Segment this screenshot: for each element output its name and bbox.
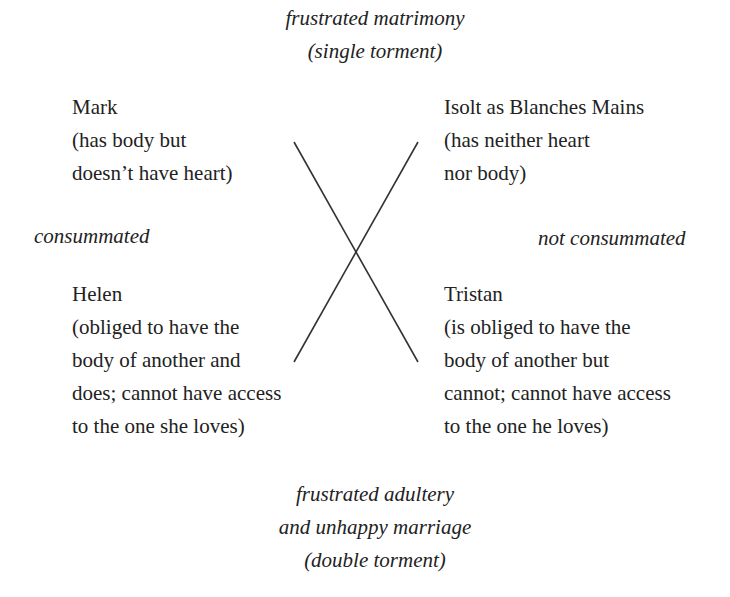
tristan-desc-4: to the one he loves) xyxy=(444,410,671,443)
helen-desc-3: does; cannot have access xyxy=(72,377,281,410)
bottom-caption-line3: (double torment) xyxy=(220,544,530,577)
left-axis-label: consummated xyxy=(34,220,149,253)
helen-desc-4: to the one she loves) xyxy=(72,410,281,443)
mark-name: Mark xyxy=(72,91,233,124)
isolt-desc-1: (has neither heart xyxy=(444,124,644,157)
mark-desc-2: doesn’t have heart) xyxy=(72,157,233,190)
helen-desc-2: body of another and xyxy=(72,344,281,377)
mark-desc-1: (has body but xyxy=(72,124,233,157)
tristan-node: Tristan (is obliged to have the body of … xyxy=(444,278,671,443)
bottom-caption: frustrated adultery and unhappy marriage… xyxy=(220,478,530,577)
tristan-name: Tristan xyxy=(444,278,671,311)
tristan-desc-2: body of another but xyxy=(444,344,671,377)
isolt-desc-2: nor body) xyxy=(444,157,644,190)
helen-node: Helen (obliged to have the body of anoth… xyxy=(72,278,281,443)
helen-desc-1: (obliged to have the xyxy=(72,311,281,344)
helen-name: Helen xyxy=(72,278,281,311)
bottom-caption-line2: and unhappy marriage xyxy=(220,511,530,544)
bottom-caption-line1: frustrated adultery xyxy=(220,478,530,511)
mark-node: Mark (has body but doesn’t have heart) xyxy=(72,91,233,190)
isolt-name: Isolt as Blanches Mains xyxy=(444,91,644,124)
top-caption: frustrated matrimony (single torment) xyxy=(230,2,520,68)
top-caption-line2: (single torment) xyxy=(230,35,520,68)
tristan-desc-3: cannot; cannot have access xyxy=(444,377,671,410)
tristan-desc-1: (is obliged to have the xyxy=(444,311,671,344)
top-caption-line1: frustrated matrimony xyxy=(230,2,520,35)
right-axis-label: not consummated xyxy=(538,222,686,255)
isolt-node: Isolt as Blanches Mains (has neither hea… xyxy=(444,91,644,190)
